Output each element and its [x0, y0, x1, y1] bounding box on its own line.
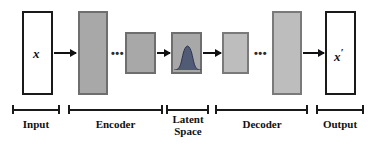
bracket-encoder — [68, 105, 163, 114]
gaussian-curve-icon — [174, 42, 201, 70]
section-label-latent-space: Latent Space — [160, 114, 216, 137]
arrow-input-to-encoder — [54, 52, 76, 54]
encoder-layer-2-box — [125, 32, 156, 74]
latent-space-box — [171, 32, 202, 74]
decoder-ellipsis: ••• — [254, 48, 267, 59]
arrow-decoder-to-output — [303, 52, 324, 54]
output-variable-label: x′ — [334, 47, 344, 63]
decoder-layer-1-box — [222, 32, 249, 74]
section-label-input: Input — [6, 119, 66, 131]
decoder-layer-2-box — [272, 11, 302, 95]
encoder-ellipsis: ••• — [111, 48, 124, 59]
bracket-decoder — [215, 105, 308, 114]
section-label-encoder: Encoder — [63, 119, 168, 131]
input-variable-label: x — [33, 47, 40, 60]
bracket-output — [316, 105, 364, 114]
arrow-encoder-to-latent — [157, 52, 170, 54]
autoencoder-diagram: x ••• ••• x′ Input Encoder Latent S — [0, 0, 375, 150]
bracket-input — [12, 105, 60, 114]
section-label-decoder: Decoder — [212, 119, 312, 131]
encoder-layer-1-box — [78, 11, 108, 95]
arrow-latent-to-decoder — [203, 52, 221, 54]
prime-symbol: ′ — [341, 46, 344, 58]
section-label-output: Output — [310, 119, 370, 131]
